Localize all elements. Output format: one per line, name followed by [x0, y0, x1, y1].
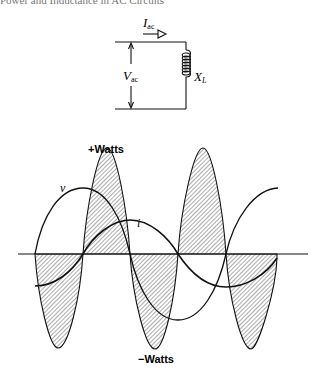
current-arrow-icon: [143, 30, 166, 38]
power-lobe-positive-2: [178, 148, 226, 254]
inductor-coil-icon: [182, 50, 190, 101]
current-label: Iac: [142, 15, 155, 31]
voltage-curve-label: v: [60, 181, 66, 195]
negative-watts-label: −Watts: [138, 353, 174, 365]
current-curve-label: i: [137, 216, 140, 230]
power-lobe-negative-1: [35, 254, 83, 348]
voltage-label: Vac: [123, 68, 139, 84]
positive-watts-label: +Watts: [88, 143, 124, 155]
inductive-power-diagram: Iac Vac XL v i +Watts −Watts: [0, 0, 318, 376]
waveform-plot: [18, 148, 308, 349]
power-lobe-negative-2: [130, 254, 178, 349]
reactance-label: XL: [193, 69, 207, 85]
